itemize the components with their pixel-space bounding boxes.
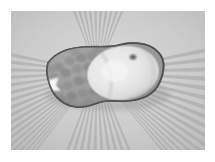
- photo-grain: [11, 11, 205, 150]
- photo-content: [11, 11, 205, 150]
- page-root: Elongated blob-shaped object lying horiz…: [0, 0, 215, 162]
- photo-frame: [11, 11, 205, 150]
- photograph-canvas: [11, 11, 205, 150]
